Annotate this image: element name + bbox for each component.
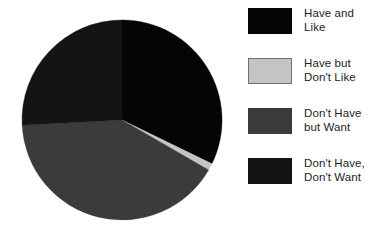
legend-label-dont-have-dont-want: Don't Have, Don't Want (304, 156, 365, 184)
pie-chart-figure: Have and Like Have but Don't Like Don't … (0, 0, 383, 236)
legend-swatch-have-and-like (248, 8, 292, 34)
legend-swatch-dont-have-dont-want (248, 158, 292, 184)
legend-item-dont-have-but-want[interactable]: Don't Have but Want (248, 106, 383, 156)
legend-label-dont-have-but-want: Don't Have but Want (304, 106, 362, 134)
pie-chart-svg (0, 0, 240, 236)
pie-slice-group (22, 20, 222, 220)
legend-swatch-dont-have-but-want (248, 108, 292, 134)
legend-label-have-but-dont-like: Have but Don't Like (304, 56, 356, 84)
legend-item-dont-have-dont-want[interactable]: Don't Have, Don't Want (248, 156, 383, 206)
legend-swatch-have-but-dont-like (248, 58, 292, 84)
legend-item-have-but-dont-like[interactable]: Have but Don't Like (248, 56, 383, 106)
pie-chart-plot-area (0, 0, 240, 236)
legend-label-have-and-like: Have and Like (304, 6, 354, 34)
legend-item-have-and-like[interactable]: Have and Like (248, 6, 383, 56)
pie-slice[interactable] (22, 20, 122, 125)
chart-legend: Have and Like Have but Don't Like Don't … (248, 6, 383, 230)
